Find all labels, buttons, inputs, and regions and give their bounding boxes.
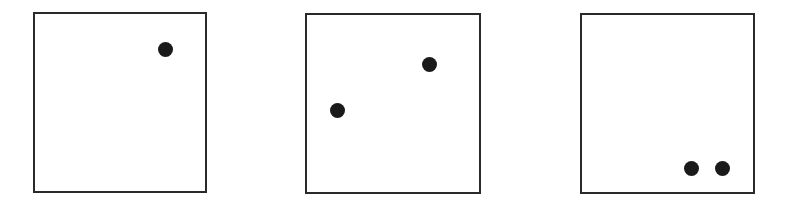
- dot-3-2: [715, 161, 730, 176]
- square-panel-3: [580, 13, 755, 194]
- square-panel-1: [33, 12, 207, 193]
- dot-3-1: [684, 161, 699, 176]
- dot-1-1: [158, 42, 173, 57]
- dot-2-2: [330, 103, 345, 118]
- dot-2-1: [422, 57, 437, 72]
- square-panel-2: [305, 13, 481, 194]
